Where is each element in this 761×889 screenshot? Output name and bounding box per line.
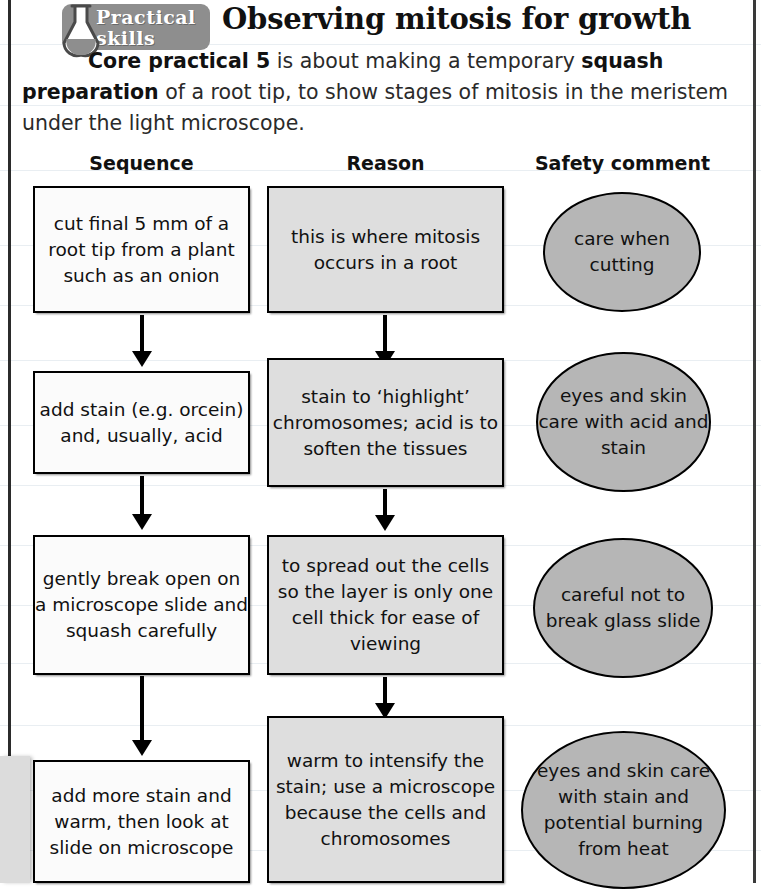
flow-box-reason-2: stain to ‘highlight’ chromosomes; acid i… xyxy=(267,358,504,487)
flow-box-reason-3: to spread out the cells so the layer is … xyxy=(267,535,504,675)
page-edge-right xyxy=(753,0,756,883)
flow-box-reason-4: warm to intensify the stain; use a micro… xyxy=(267,716,504,883)
page-edge-left xyxy=(8,0,11,757)
column-header-safety: Safety comment xyxy=(520,152,725,174)
badge-line-1: Practical xyxy=(96,7,210,28)
safety-oval-2: eyes and skin care with acid and stain xyxy=(536,352,711,492)
intro-bold-core-practical: Core practical 5 xyxy=(88,49,270,73)
safety-oval-3: careful not to break glass slide xyxy=(533,538,713,678)
intro-text-1: is about making a temporary xyxy=(270,49,581,73)
flow-box-sequence-4: add more stain and warm, then look at sl… xyxy=(33,760,250,883)
column-header-sequence: Sequence xyxy=(33,152,250,174)
flow-box-reason-1: this is where mitosis occurs in a root xyxy=(267,186,504,313)
safety-oval-1: care when cutting xyxy=(543,192,701,312)
flow-arrow-reason-2-3 xyxy=(375,489,395,531)
column-header-reason: Reason xyxy=(267,152,504,174)
safety-oval-4: eyes and skin care with stain and potent… xyxy=(521,731,726,889)
flow-arrow-sequence-1-2 xyxy=(132,315,152,367)
flow-box-sequence-3: gently break open on a microscope slide … xyxy=(33,535,250,675)
flow-box-sequence-2: add stain (e.g. orcein) and, usually, ac… xyxy=(33,371,250,474)
page-corner-artifact xyxy=(0,756,30,883)
flow-arrow-sequence-2-3 xyxy=(132,476,152,530)
flow-arrow-sequence-3-4 xyxy=(132,676,152,758)
intro-paragraph: Core practical 5 is about making a tempo… xyxy=(22,46,744,139)
flow-box-sequence-1: cut final 5 mm of a root tip from a plan… xyxy=(33,186,250,313)
page-title: Observing mitosis for growth xyxy=(222,2,752,36)
flow-arrow-reason-3-4 xyxy=(375,677,395,719)
